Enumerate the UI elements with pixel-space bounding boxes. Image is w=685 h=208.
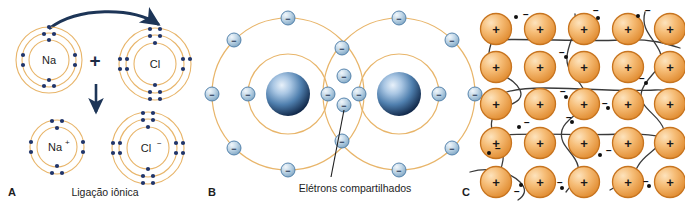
svg-text:−: − — [645, 5, 651, 16]
panel-letter-a: A — [8, 186, 16, 198]
svg-text:−: − — [231, 144, 236, 154]
metal-ion: + — [481, 52, 512, 83]
svg-text:−: − — [639, 73, 645, 84]
covalent-left-nucleus — [266, 72, 310, 116]
svg-text:−: − — [602, 98, 608, 109]
svg-text:−: − — [606, 145, 612, 156]
electron-sphere: − — [281, 163, 295, 177]
sodium-ion-charge: + — [65, 138, 70, 147]
svg-text:+: + — [492, 97, 500, 112]
svg-text:+: + — [580, 175, 588, 190]
svg-text:−: − — [560, 86, 566, 97]
panel-letter-c: C — [462, 186, 470, 198]
svg-text:−: − — [341, 72, 346, 82]
metal-ion: + — [525, 167, 556, 198]
svg-text:+: + — [666, 175, 674, 190]
metal-ion: + — [525, 89, 556, 120]
sodium-ion-label: Na — [48, 141, 63, 153]
svg-text:−: − — [566, 112, 572, 123]
chloride-ion-label: Cl — [141, 142, 151, 154]
svg-text:−: − — [593, 5, 599, 16]
svg-text:+: + — [536, 22, 544, 37]
svg-text:+: + — [624, 136, 632, 151]
svg-text:−: − — [396, 166, 401, 176]
svg-text:−: − — [325, 90, 330, 100]
metal-ion: + — [655, 14, 685, 45]
svg-text:+: + — [624, 175, 632, 190]
covalent-right-nucleus — [377, 72, 421, 116]
svg-text:+: + — [624, 97, 632, 112]
metal-ion: + — [481, 89, 512, 120]
metal-ion: + — [569, 167, 600, 198]
svg-text:+: + — [624, 22, 632, 37]
svg-text:−: − — [495, 143, 501, 154]
electron-sphere: − — [227, 33, 241, 47]
svg-text:+: + — [580, 60, 588, 75]
svg-text:+: + — [492, 175, 500, 190]
metal-ion: + — [569, 52, 600, 83]
metal-ion: + — [613, 89, 644, 120]
chlorine-atom-label: Cl — [150, 58, 160, 70]
svg-text:+: + — [536, 97, 544, 112]
shared-electrons-label: Elétrons compartilhados — [299, 182, 412, 194]
svg-text:+: + — [536, 60, 544, 75]
svg-text:−: − — [523, 9, 529, 20]
svg-text:−: − — [356, 90, 361, 100]
svg-text:−: − — [524, 117, 530, 128]
electron-sphere: − — [321, 87, 335, 101]
metal-ion: + — [525, 128, 556, 159]
svg-text:−: − — [436, 90, 441, 100]
metal-ion: + — [569, 14, 600, 45]
svg-text:−: − — [245, 90, 250, 100]
svg-text:−: − — [449, 36, 454, 46]
metal-ion: + — [613, 167, 644, 198]
svg-text:−: − — [643, 176, 649, 187]
svg-text:−: − — [339, 137, 344, 147]
svg-text:−: − — [339, 44, 344, 54]
electron-sphere: − — [468, 87, 482, 101]
electron-sphere: − — [227, 141, 241, 155]
svg-text:+: + — [666, 136, 674, 151]
panel-letter-b: B — [208, 186, 216, 198]
metal-ion: + — [655, 52, 685, 83]
metal-ion: + — [655, 128, 685, 159]
svg-text:−: − — [341, 101, 346, 111]
svg-text:−: − — [285, 166, 290, 176]
electron-sphere: − — [352, 87, 366, 101]
electron-sphere: − — [432, 87, 446, 101]
svg-text:−: − — [559, 47, 565, 58]
svg-text:−: − — [557, 177, 563, 188]
electron-sphere: − — [335, 41, 349, 55]
svg-text:+: + — [624, 60, 632, 75]
electron-sphere: − — [445, 33, 459, 47]
svg-text:+: + — [666, 60, 674, 75]
figure-canvas: Na + Cl — [0, 0, 685, 208]
electron-sphere: − — [445, 141, 459, 155]
svg-text:−: − — [449, 144, 454, 154]
svg-text:+: + — [580, 136, 588, 151]
svg-text:+: + — [492, 22, 500, 37]
metal-ion: + — [613, 128, 644, 159]
electron-sphere: − — [205, 87, 219, 101]
metal-ion: + — [655, 89, 685, 120]
svg-text:−: − — [231, 36, 236, 46]
svg-text:−: − — [209, 90, 214, 100]
svg-text:+: + — [492, 60, 500, 75]
svg-text:−: − — [396, 14, 401, 24]
svg-text:−: − — [472, 90, 477, 100]
svg-text:+: + — [580, 22, 588, 37]
svg-text:−: − — [285, 14, 290, 24]
svg-text:+: + — [536, 175, 544, 190]
chemical-bonding-figure: Na + Cl — [0, 0, 685, 208]
ionic-bond-caption: Ligação iônica — [71, 186, 138, 198]
electron-sphere: − — [281, 11, 295, 25]
electron-sphere: − — [392, 11, 406, 25]
metal-ion: + — [481, 14, 512, 45]
electron-sphere: − — [241, 87, 255, 101]
svg-text:+: + — [666, 22, 674, 37]
reaction-plus-operator: + — [89, 50, 100, 71]
metal-ion: + — [569, 89, 600, 120]
svg-text:+: + — [580, 97, 588, 112]
metal-ion: + — [525, 52, 556, 83]
svg-text:−: − — [514, 186, 520, 197]
